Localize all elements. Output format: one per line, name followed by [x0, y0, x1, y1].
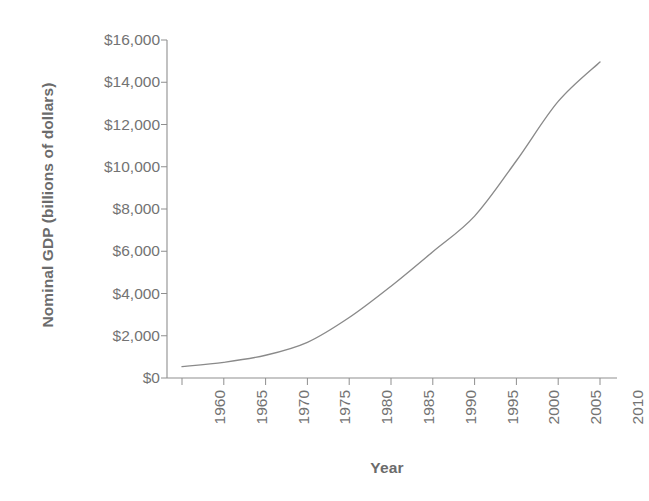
plot-area — [0, 0, 649, 501]
axis-ticks — [161, 40, 600, 385]
x-axis-title: Year — [167, 459, 607, 477]
gdp-data-line — [182, 62, 600, 367]
axis-lines — [167, 40, 617, 378]
gdp-line-chart: Nominal GDP (billions of dollars) $0$2,0… — [0, 0, 649, 501]
